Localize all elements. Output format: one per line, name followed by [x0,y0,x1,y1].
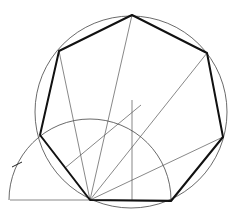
radiating-line [90,137,223,200]
radiating-line [90,15,132,200]
division-tick-mark [12,162,22,167]
circumscribed-circle [35,16,227,208]
construction-diagonal [65,105,141,168]
heptagon-diagram [0,0,236,220]
radiating-line [59,51,90,200]
heptagon [40,15,223,201]
construction-semicircle [9,119,171,200]
